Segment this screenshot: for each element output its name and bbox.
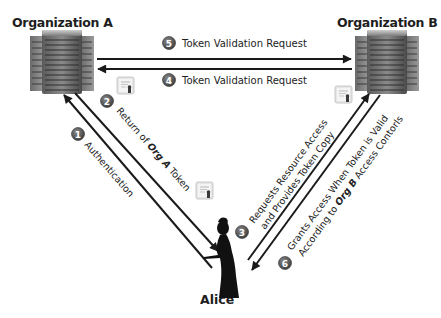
step-3-badge: 3	[236, 226, 249, 239]
token-certificate-icon	[335, 86, 352, 103]
identity-federation-diagram: Organization A Organization B Alice	[0, 0, 441, 318]
alice-person-icon	[204, 218, 239, 299]
step-6-badge: 6	[279, 257, 292, 270]
step-2-badge: 2	[101, 95, 114, 108]
svg-text:5: 5	[166, 39, 172, 49]
svg-text:2: 2	[104, 97, 110, 107]
arrow-step-6	[252, 95, 380, 270]
step-4-label: Token Validation Request	[181, 75, 307, 86]
svg-text:3: 3	[239, 228, 245, 238]
arrow-step-2	[75, 93, 218, 251]
step-1-badge: 1	[72, 128, 85, 141]
svg-text:6: 6	[282, 259, 288, 269]
org-b-server-icon	[355, 30, 419, 94]
svg-text:1: 1	[75, 130, 81, 140]
step-5-badge: 5	[163, 37, 176, 50]
token-certificate-icon	[196, 182, 213, 199]
org-a-server-icon	[30, 30, 94, 94]
token-certificate-icon	[117, 77, 134, 94]
diagram-canvas: 5 Token Validation Request 4 Token Valid…	[0, 0, 441, 318]
step-4-badge: 4	[163, 74, 176, 87]
svg-text:4: 4	[166, 76, 172, 86]
step-5-label: Token Validation Request	[181, 38, 307, 49]
